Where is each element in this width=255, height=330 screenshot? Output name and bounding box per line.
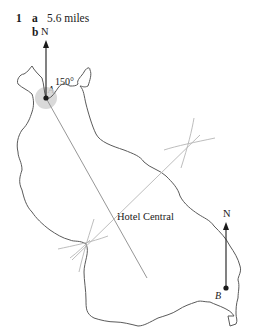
point-a-dot [43,95,48,100]
island-map [0,0,255,330]
point-b-dot [223,285,228,290]
construction-arcs-lower [58,219,108,272]
north-arrow-b [223,222,229,288]
construction-arcs-upper [164,118,215,168]
bearing-line-a [46,98,147,278]
